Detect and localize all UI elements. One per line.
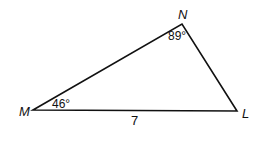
vertex-label-m: M — [19, 104, 30, 119]
angle-label-n: 89° — [168, 29, 186, 43]
angle-label-m: 46° — [52, 97, 70, 111]
vertex-label-l: L — [242, 106, 249, 121]
triangle-diagram: N M L 89° 46° 7 — [0, 0, 264, 142]
vertex-label-n: N — [178, 7, 188, 22]
side-label-ml: 7 — [131, 113, 138, 128]
